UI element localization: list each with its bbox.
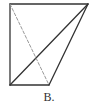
figure-label: B. xyxy=(0,90,95,105)
diagonal xyxy=(10,4,88,85)
right-slant-edge xyxy=(49,4,88,85)
hidden-edge xyxy=(10,4,49,85)
